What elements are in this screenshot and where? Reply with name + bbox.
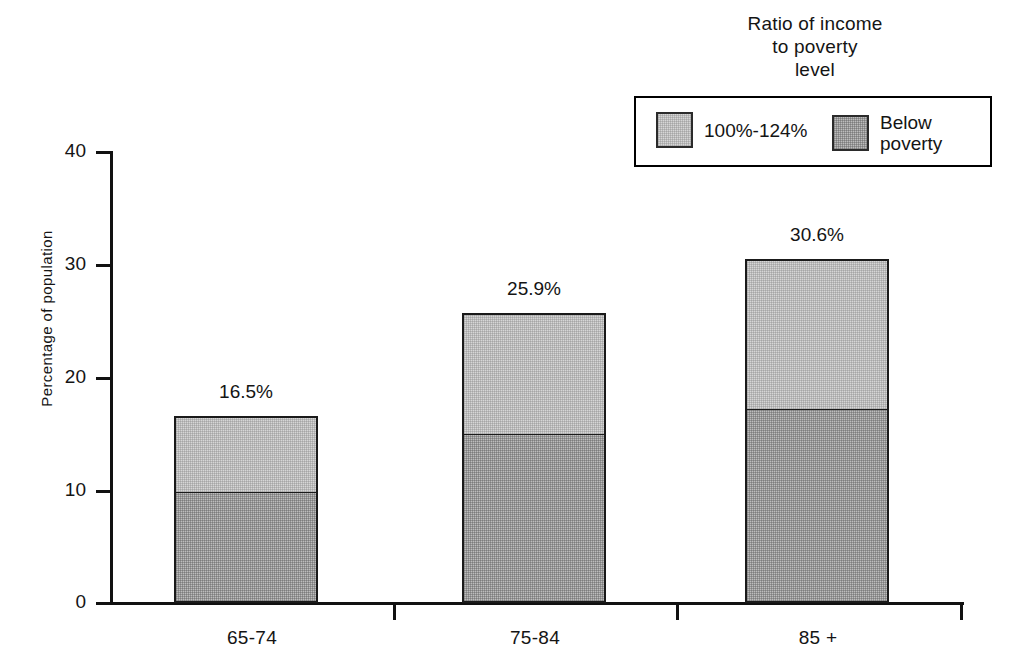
bar-value-label-85-plus: 30.6% bbox=[717, 224, 917, 246]
legend-swatch-light-icon bbox=[656, 112, 693, 148]
y-tick-mark-0 bbox=[96, 602, 111, 605]
legend-entry-below-poverty[interactable]: Below poverty bbox=[832, 112, 942, 154]
y-axis-title: Percentage of population bbox=[38, 189, 55, 449]
y-tick-mark-40 bbox=[96, 151, 111, 154]
legend-title-line-2: to poverty bbox=[665, 35, 965, 58]
bar-segment-65-74-100-124[interactable] bbox=[174, 416, 318, 493]
x-axis-label-85-plus: 85 + bbox=[718, 627, 918, 649]
legend-label-100-124: 100%-124% bbox=[704, 120, 808, 141]
x-axis-label-65-74: 65-74 bbox=[152, 627, 352, 649]
legend-box: 100%-124% Below poverty bbox=[634, 96, 992, 167]
bar-75-84[interactable] bbox=[462, 313, 606, 603]
bar-85-plus[interactable] bbox=[745, 259, 889, 603]
x-axis-label-75-84: 75-84 bbox=[435, 627, 635, 649]
y-tick-label-20: 20 bbox=[26, 366, 86, 388]
legend-title: Ratio of income to poverty level bbox=[665, 12, 965, 81]
y-tick-label-40: 40 bbox=[26, 140, 86, 162]
legend-label-below-poverty: Below poverty bbox=[880, 112, 942, 154]
legend-swatch-dark-icon bbox=[832, 115, 869, 151]
y-tick-mark-30 bbox=[96, 264, 111, 267]
legend-title-line-3: level bbox=[665, 58, 965, 81]
x-tick-mark-3 bbox=[960, 604, 963, 620]
bar-segment-75-84-100-124[interactable] bbox=[462, 313, 606, 435]
bar-value-label-65-74: 16.5% bbox=[146, 381, 346, 403]
y-tick-label-0: 0 bbox=[26, 591, 86, 613]
bar-value-label-75-84: 25.9% bbox=[434, 278, 634, 300]
y-tick-mark-20 bbox=[96, 377, 111, 380]
legend-title-line-1: Ratio of income bbox=[665, 12, 965, 35]
bar-65-74[interactable] bbox=[174, 416, 318, 603]
bar-segment-75-84-below-poverty[interactable] bbox=[462, 434, 606, 603]
bar-segment-65-74-below-poverty[interactable] bbox=[174, 492, 318, 603]
bar-segment-85-plus-100-124[interactable] bbox=[745, 259, 889, 410]
y-tick-mark-10 bbox=[96, 490, 111, 493]
chart-canvas: Ratio of income to poverty level 100%-12… bbox=[0, 0, 1017, 662]
legend-entry-100-124[interactable]: 100%-124% bbox=[656, 112, 808, 148]
y-tick-label-30: 30 bbox=[26, 253, 86, 275]
x-tick-mark-1 bbox=[393, 604, 396, 620]
bar-segment-85-plus-below-poverty[interactable] bbox=[745, 409, 889, 603]
x-tick-mark-2 bbox=[676, 604, 679, 620]
y-tick-label-10: 10 bbox=[26, 479, 86, 501]
